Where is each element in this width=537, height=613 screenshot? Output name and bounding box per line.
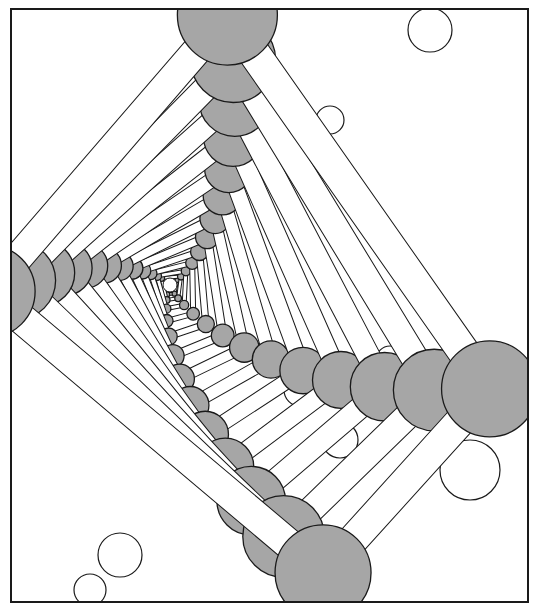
dark-atom-sphere (180, 300, 189, 309)
bond-rod-fill (199, 252, 205, 324)
bond-rod-fill (192, 263, 193, 314)
illustration-canvas (0, 0, 537, 613)
dark-atom-sphere (442, 341, 537, 437)
dark-atom-sphere (197, 316, 214, 333)
molecular-tunnel-illustration (0, 0, 537, 613)
dark-atom-sphere (175, 295, 182, 302)
tunnel-drawing (0, 0, 537, 613)
light-atom-sphere (408, 8, 452, 52)
dark-atom-sphere (275, 525, 371, 613)
tunnel-center-opening (163, 278, 177, 292)
dark-atom-sphere (187, 307, 200, 320)
light-atom-sphere (98, 533, 142, 577)
